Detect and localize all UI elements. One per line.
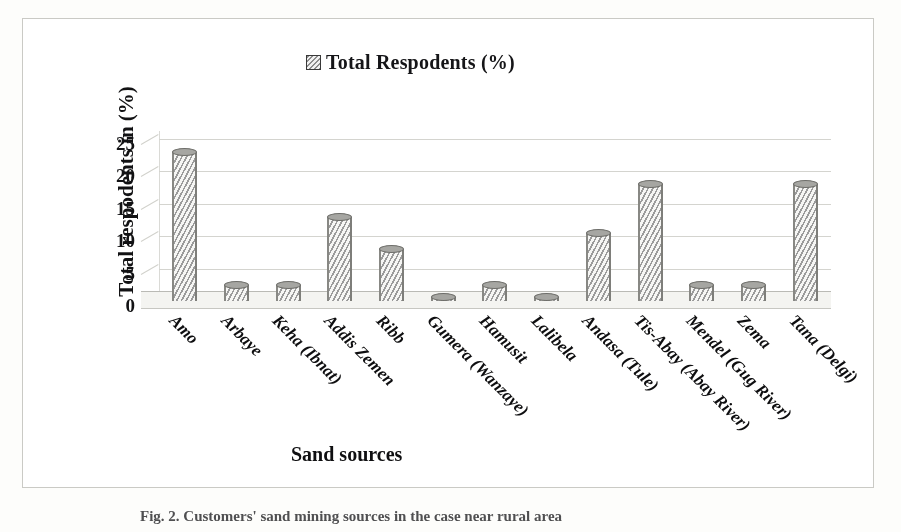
bar-slot: [624, 131, 676, 301]
x-axis-label: Zema: [733, 311, 775, 353]
x-axis-label: Ribb: [371, 311, 409, 349]
gridline-depth-edge: [141, 231, 159, 242]
x-axis-title: Sand sources: [291, 443, 402, 466]
y-axis-tick-label: 10: [116, 230, 135, 252]
bar[interactable]: [741, 285, 766, 301]
bar-slot: [314, 131, 366, 301]
bar-slot: [262, 131, 314, 301]
bar[interactable]: [431, 297, 456, 301]
y-axis-tick-label: 15: [116, 198, 135, 220]
x-axis-label: Lalibela: [527, 311, 582, 366]
y-axis-tick-label: 25: [116, 133, 135, 155]
bar-slot: [366, 131, 418, 301]
bar-slot: [573, 131, 625, 301]
bar-slot: [469, 131, 521, 301]
legend-swatch-hatched-square-icon: [306, 55, 321, 70]
bar[interactable]: [534, 297, 559, 301]
figure-caption: Fig. 2. Customers' sand mining sources i…: [140, 508, 780, 525]
plot-area: 0510152025: [141, 131, 831, 307]
figure-frame: Total Respodents (%) Total respodents in…: [22, 18, 874, 488]
chart-legend: Total Respodents (%): [306, 51, 515, 74]
bar[interactable]: [586, 233, 611, 301]
y-axis-tick-label: 5: [126, 263, 136, 285]
gridline-depth-edge: [141, 199, 159, 210]
x-axis-label: Amo: [165, 311, 203, 349]
bar[interactable]: [379, 249, 404, 301]
x-axis-labels: AmoArbayeKeha (Ibnat)Addis ZemenRibbGume…: [141, 311, 831, 461]
legend-label: Total Respodents (%): [326, 51, 515, 74]
bar-slot: [521, 131, 573, 301]
bar[interactable]: [276, 285, 301, 301]
gridline-depth-edge: [141, 264, 159, 275]
bar[interactable]: [327, 217, 352, 301]
x-axis-label: Tana (Delgi): [785, 311, 862, 388]
bar-slot: [159, 131, 211, 301]
bar-slot: [728, 131, 780, 301]
bar[interactable]: [482, 285, 507, 301]
gridline-depth-edge: [141, 166, 159, 177]
bar[interactable]: [793, 184, 818, 301]
y-axis-tick-label: 0: [126, 295, 136, 317]
bar-slot: [417, 131, 469, 301]
bar-slot: [211, 131, 263, 301]
bar-slot: [779, 131, 831, 301]
bar[interactable]: [638, 184, 663, 301]
bar[interactable]: [172, 152, 197, 301]
y-axis-tick-label: 20: [116, 165, 135, 187]
bar-slot: [676, 131, 728, 301]
gridline-depth-edge: [141, 134, 159, 145]
bar-series: [159, 131, 831, 301]
bar[interactable]: [224, 285, 249, 301]
bar[interactable]: [689, 285, 714, 301]
x-axis-label: Arbaye: [216, 311, 266, 361]
